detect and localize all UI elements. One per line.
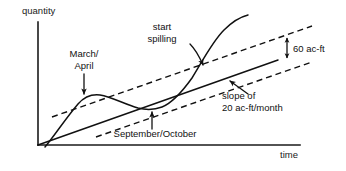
x-axis-label: time — [280, 149, 298, 160]
september-october-label: September/October — [114, 128, 197, 139]
sixty-acft-label: 60 ac-ft — [293, 43, 325, 54]
march-april-label-line1: March/ — [69, 48, 98, 59]
annotation-march-april: March/ April — [69, 48, 98, 94]
diagram-canvas: March/ April start spilling September/Oc… — [0, 0, 346, 171]
start-spilling-arrow-icon — [190, 44, 203, 65]
slope-label-line2: 20 ac-ft/month — [222, 102, 283, 113]
annotation-slope: slope of 20 ac-ft/month — [222, 81, 283, 113]
y-axis-label: quantity — [22, 5, 56, 16]
reservoir-diagram: March/ April start spilling September/Oc… — [0, 0, 346, 171]
start-spilling-label-line2: spilling — [147, 33, 176, 44]
lower-dashed-line — [96, 62, 312, 137]
march-april-label-line2: April — [74, 60, 93, 71]
start-spilling-label-line1: start — [153, 21, 172, 32]
annotation-sixty-acft: 60 ac-ft — [287, 38, 325, 58]
slope-label-line1: slope of — [222, 90, 256, 101]
annotation-start-spilling: start spilling — [147, 21, 203, 65]
